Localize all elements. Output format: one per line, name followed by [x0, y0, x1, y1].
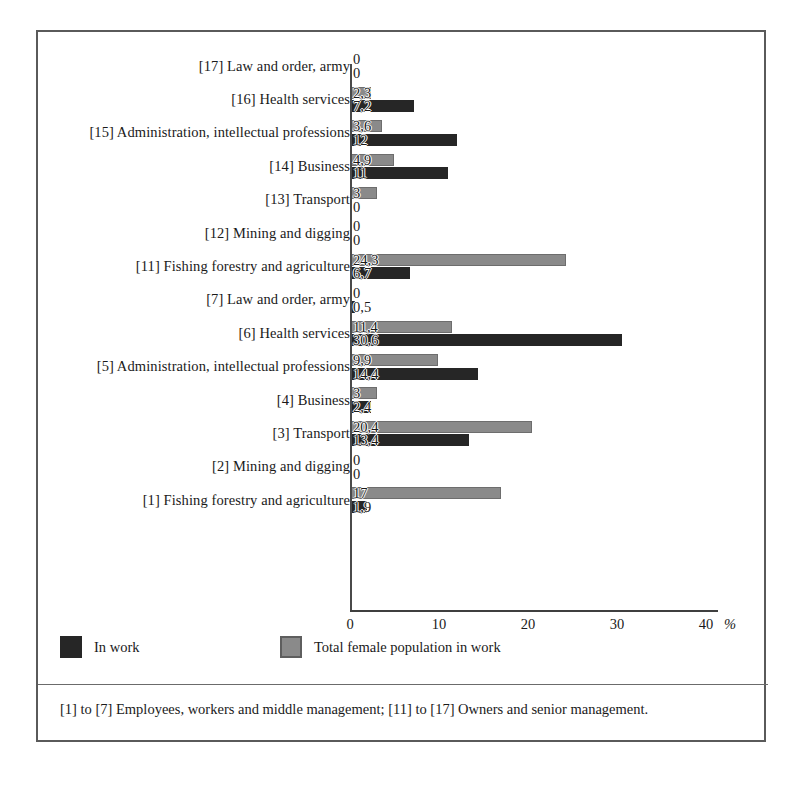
bar-value-in-work: 7,2 [353, 99, 371, 114]
x-tick-label: 30 [610, 616, 625, 633]
bar-total-female [350, 254, 566, 266]
chart-row: [17] Law and order, army 0 0 [38, 50, 768, 83]
category-label: [11] Fishing forestry and agriculture [136, 259, 350, 275]
bar-value-in-work: 6,7 [353, 266, 371, 281]
row-bars: 17 1,9 [350, 484, 758, 517]
bar-total-female [350, 487, 501, 499]
chart-row: [6] Health services 11,4 30,6 [38, 317, 768, 350]
legend-entry-total-female: Total female population in work [280, 636, 501, 658]
footnote-text: [1] to [7] Employees, workers and middle… [60, 700, 748, 719]
bar-pair-gray: 3,6 [350, 120, 382, 132]
bar-pair-gray: 9,9 [350, 354, 438, 366]
bar-value-in-work: 0,5 [353, 299, 371, 314]
bar-value-in-work: 30,6 [353, 333, 378, 348]
chart-row: [14] Business 4,9 11 [38, 150, 768, 183]
legend-swatch-total-female-icon [280, 636, 302, 658]
row-bars: 0 0 [350, 451, 758, 484]
bar-pair-gray: 4,9 [350, 154, 394, 166]
category-label: [14] Business [269, 159, 350, 175]
x-tick-label: 10 [432, 616, 447, 633]
row-bars: 2,3 7,2 [350, 83, 758, 116]
category-label: [12] Mining and digging [205, 226, 350, 242]
chart-row: [15] Administration, intellectual profes… [38, 117, 768, 150]
category-label: [16] Health services [231, 92, 350, 108]
row-bars: 9,9 14,4 [350, 351, 758, 384]
chart-row: [2] Mining and digging 0 0 [38, 451, 768, 484]
category-label: [4] Business [277, 393, 350, 409]
x-axis-line [350, 610, 718, 612]
bar-value-in-work: 0 [353, 199, 360, 214]
y-axis-line [350, 64, 352, 610]
bar-pair-gray: 17 [350, 487, 501, 499]
chart-row: [5] Administration, intellectual profess… [38, 351, 768, 384]
bar-pair-dark: 6,7 [350, 267, 410, 279]
bar-value-in-work: 0 [353, 466, 360, 481]
bar-value-in-work: 14,4 [353, 366, 378, 381]
category-label: [5] Administration, intellectual profess… [97, 359, 350, 375]
bar-in-work [350, 334, 622, 346]
bar-pair-gray: 2,3 [350, 87, 371, 99]
row-bars: 3 2,4 [350, 384, 758, 417]
category-label: [7] Law and order, army [206, 292, 350, 308]
category-label: [2] Mining and digging [212, 459, 350, 475]
bar-pair-dark: 30,6 [350, 334, 622, 346]
chart-row: [11] Fishing forestry and agriculture 24… [38, 250, 768, 283]
bar-pair-dark: 12 [350, 134, 457, 146]
row-bars: 24,3 6,7 [350, 250, 758, 283]
bar-value-in-work: 0 [353, 233, 360, 248]
bar-pair-dark: 7,2 [350, 100, 414, 112]
category-label: [13] Transport [265, 192, 350, 208]
bar-pair-gray: 24,3 [350, 254, 566, 266]
category-label: [6] Health services [239, 326, 350, 342]
row-bars: 0 0,5 [350, 284, 758, 317]
category-label: [17] Law and order, army [199, 59, 350, 75]
bar-pair-dark: 2,4 [350, 401, 371, 413]
x-tick-label: 0 [346, 616, 353, 633]
chart-row: [3] Transport 20,4 13,4 [38, 417, 768, 450]
chart-row: [7] Law and order, army 0 0,5 [38, 284, 768, 317]
legend-swatch-in-work-icon [60, 636, 82, 658]
row-bars: 0 0 [350, 217, 758, 250]
bar-value-in-work: 0 [353, 66, 360, 81]
bar-pair-gray: 3 [350, 387, 377, 399]
chart-row: [12] Mining and digging 0 0 [38, 217, 768, 250]
row-bars: 11,4 30,6 [350, 317, 758, 350]
x-tick-label: 20 [521, 616, 536, 633]
bar-pair-gray: 11,4 [350, 321, 452, 333]
bar-pair-gray: 3 [350, 187, 377, 199]
chart-row: [16] Health services 2,3 7,2 [38, 83, 768, 116]
bar-value-in-work: 1,9 [353, 500, 371, 515]
category-label: [15] Administration, intellectual profes… [89, 126, 350, 142]
bar-pair-dark: 13,4 [350, 434, 469, 446]
bar-value-in-work: 11 [353, 166, 367, 181]
category-label: [1] Fishing forestry and agriculture [143, 493, 350, 509]
bar-pair-gray: 20,4 [350, 421, 532, 433]
chart-legend: In work Total female population in work [38, 636, 768, 682]
chart-row: [13] Transport 3 0 [38, 184, 768, 217]
bar-value-in-work: 2,4 [353, 400, 371, 415]
row-bars: 20,4 13,4 [350, 417, 758, 450]
chart-row: [4] Business 3 2,4 [38, 384, 768, 417]
x-axis-unit-label: % [724, 616, 736, 633]
row-bars: 0 0 [350, 50, 758, 83]
category-label: [3] Transport [273, 426, 350, 442]
bar-value-in-work: 13,4 [353, 433, 378, 448]
x-tick-label: 40 [699, 616, 714, 633]
legend-label-total-female: Total female population in work [314, 639, 501, 656]
row-bars: 3,6 12 [350, 117, 758, 150]
legend-entry-in-work: In work [60, 636, 140, 658]
bar-pair-dark: 1,9 [350, 501, 367, 513]
plot-area: [17] Law and order, army 0 0 [16] Health… [38, 50, 768, 610]
chart-figure-frame: [17] Law and order, army 0 0 [16] Health… [36, 30, 766, 742]
bar-pair-dark: 14,4 [350, 368, 478, 380]
chart-row: [1] Fishing forestry and agriculture 17 … [38, 484, 768, 517]
row-bars: 4,9 11 [350, 150, 758, 183]
bar-value-in-work: 12 [353, 133, 368, 148]
bar-rows: [17] Law and order, army 0 0 [16] Health… [38, 50, 768, 517]
bar-pair-dark: 11 [350, 167, 448, 179]
row-bars: 3 0 [350, 184, 758, 217]
legend-label-in-work: In work [94, 639, 140, 656]
footnote-separator [38, 684, 768, 685]
